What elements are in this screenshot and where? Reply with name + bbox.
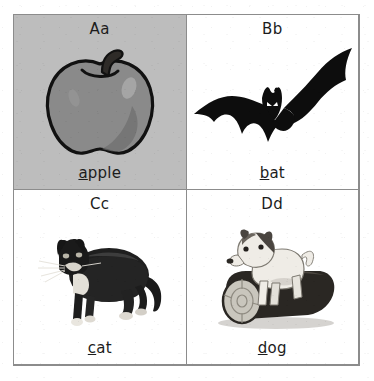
word-rest-bat: at [269,164,284,182]
letter-heading-d: Dd [261,197,283,212]
word-rest-apple: pple [88,164,121,182]
flashcard-grid: Aa apple [13,14,360,366]
letter-heading-b: Bb [262,22,283,37]
bat-silhouette [187,37,359,166]
word-initial-b: b [260,164,270,182]
flashcard-page: Aa apple [0,0,374,381]
word-label-bat: bat [260,166,285,181]
flashcard-dog[interactable]: Dd [186,189,360,365]
flashcard-apple[interactable]: Aa apple [13,14,187,190]
word-initial-d: d [258,339,268,357]
flashcard-cat[interactable]: Cc [13,189,187,365]
letter-heading-a: Aa [90,22,110,37]
cat-photo [14,212,186,341]
letter-heading-c: Cc [90,197,110,212]
apple-illustration [14,37,186,166]
word-label-cat: cat [88,341,112,356]
word-rest-dog: og [268,339,287,357]
word-label-dog: dog [258,341,287,356]
word-initial-c: c [88,339,96,357]
word-initial-a: a [78,164,87,182]
dog-on-log-photo [187,212,359,341]
word-rest-cat: at [96,339,111,357]
word-label-apple: apple [78,166,121,181]
flashcard-bat[interactable]: Bb [186,14,360,190]
